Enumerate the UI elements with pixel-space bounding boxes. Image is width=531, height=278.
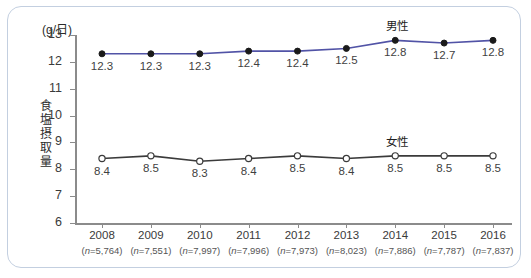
data-point-marker (441, 153, 447, 159)
data-point-label: 12.7 (433, 49, 455, 61)
x-axis-tick (298, 223, 299, 228)
plot-area: 678910111213 200820092010201120122013201… (75, 35, 512, 223)
data-point-marker (148, 51, 154, 57)
data-point-marker (99, 51, 105, 57)
data-point-marker (295, 48, 301, 54)
x-axis-tick-label: 2012 (285, 229, 311, 241)
data-point-marker (148, 153, 154, 159)
x-axis-line (75, 223, 512, 225)
data-point-label: 8.4 (338, 165, 354, 177)
x-axis-tick-label: 2016 (480, 229, 506, 241)
data-point-marker (490, 37, 496, 43)
data-point-label: 12.4 (286, 57, 308, 69)
x-axis-tick-label: 2011 (236, 229, 261, 241)
sample-size-label: (n=7,886) (375, 245, 416, 256)
data-point-label: 8.5 (485, 162, 501, 174)
data-point-label: 8.4 (241, 165, 257, 177)
data-point-label: 12.8 (482, 46, 504, 58)
y-axis-tick: 6 (70, 223, 76, 224)
data-point-label: 12.3 (189, 60, 211, 72)
y-axis-tick-label: 7 (55, 188, 62, 202)
data-point-label: 8.5 (143, 162, 159, 174)
y-axis-tick-label: 10 (48, 108, 62, 122)
series-label-male: 男性 (386, 17, 408, 33)
sample-size-label: (n=5,764) (82, 245, 123, 256)
x-axis-tick (444, 223, 445, 228)
sample-size-label: (n=7,551) (130, 245, 171, 256)
x-axis-tick-label: 2009 (138, 229, 164, 241)
sample-size-label: (n=7,997) (179, 245, 220, 256)
x-axis-tick (346, 223, 347, 228)
data-point-marker (294, 153, 300, 159)
x-axis-tick (102, 223, 103, 228)
data-point-label: 8.3 (192, 167, 208, 179)
x-axis-tick (151, 223, 152, 228)
data-point-label: 12.4 (237, 57, 259, 69)
data-point-marker (343, 155, 349, 161)
data-point-marker (99, 155, 105, 161)
data-point-label: 12.3 (91, 60, 113, 72)
data-point-label: 8.4 (94, 165, 110, 177)
x-axis-tick (249, 223, 250, 228)
x-axis-tick-label: 2010 (187, 229, 213, 241)
data-point-marker (197, 158, 203, 164)
y-axis-tick-label: 12 (48, 54, 62, 68)
data-point-marker (343, 45, 349, 51)
series-label-female: 女性 (386, 133, 408, 149)
x-axis-tick (200, 223, 201, 228)
sample-size-label: (n=8,023) (326, 245, 367, 256)
sample-size-label: (n=7,787) (424, 245, 465, 256)
data-point-marker (392, 153, 398, 159)
data-point-label: 12.5 (335, 54, 357, 66)
y-axis-tick-label: 11 (49, 81, 62, 95)
data-point-marker (392, 37, 398, 43)
data-point-label: 8.5 (436, 162, 452, 174)
x-axis-tick-label: 2013 (334, 229, 360, 241)
data-point-label: 8.5 (290, 162, 306, 174)
data-point-marker (246, 48, 252, 54)
sample-size-label: (n=7,837) (473, 245, 514, 256)
x-axis-tick (395, 223, 396, 228)
data-point-marker (246, 155, 252, 161)
sample-size-label: (n=7,996) (228, 245, 269, 256)
x-axis-tick-label: 2008 (89, 229, 115, 241)
data-point-marker (490, 153, 496, 159)
x-axis-tick (493, 223, 494, 228)
y-axis-tick-label: 13 (48, 27, 62, 41)
data-point-label: 12.8 (384, 46, 406, 58)
chart-panel: (g/日) 食塩摂取量 678910111213 200820092010201… (7, 6, 521, 268)
data-point-label: 12.3 (140, 60, 162, 72)
data-point-marker (197, 51, 203, 57)
y-axis-tick-label: 8 (55, 161, 62, 175)
chart-screenshot: (g/日) 食塩摂取量 678910111213 200820092010201… (0, 0, 531, 278)
data-point-marker (441, 40, 447, 46)
y-axis-tick-label: 9 (55, 134, 62, 148)
x-axis-tick-label: 2015 (431, 229, 457, 241)
y-axis-tick-label: 6 (55, 215, 62, 229)
sample-size-label: (n=7,973) (277, 245, 318, 256)
data-point-label: 8.5 (387, 162, 403, 174)
x-axis-tick-label: 2014 (382, 229, 408, 241)
